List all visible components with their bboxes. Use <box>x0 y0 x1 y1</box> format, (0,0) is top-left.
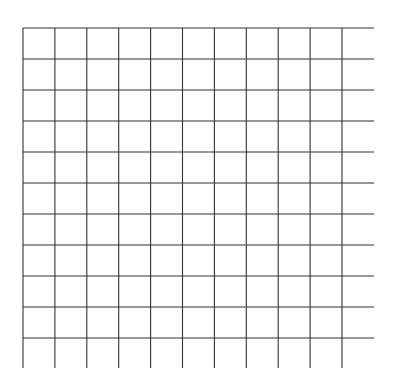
vertical-grid-lines <box>23 28 342 368</box>
horizontal-grid-lines <box>23 28 374 338</box>
square-grid <box>0 0 393 390</box>
